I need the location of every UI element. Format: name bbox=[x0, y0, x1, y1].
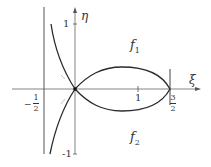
origin-point bbox=[73, 87, 77, 91]
diagram-svg bbox=[0, 0, 211, 167]
eta-tick-label-minus-1: -1 bbox=[62, 149, 72, 159]
tangent-hint-lower bbox=[61, 99, 65, 104]
xi-axis-label: ξ bbox=[189, 74, 196, 86]
eta-tick-label-1: 1 bbox=[63, 19, 69, 29]
xi-axis-arrow-icon bbox=[195, 87, 201, 91]
xi-neg-tick-label: 1 2 bbox=[33, 94, 39, 113]
upper-branch-curve bbox=[51, 24, 75, 89]
eta-axis-arrow-icon bbox=[73, 7, 77, 13]
region-label-f2: f2 bbox=[130, 130, 140, 147]
xi-tick-label-1: 1 bbox=[135, 93, 141, 103]
lower-branch-curve bbox=[50, 89, 75, 154]
eta-axis-label: η bbox=[81, 10, 88, 22]
xi-tick-label-3-2: 3 2 bbox=[170, 94, 176, 113]
tangent-hint-upper bbox=[61, 75, 65, 79]
xi-neg-tick-sign: − bbox=[24, 100, 32, 109]
diagram-canvas: ξ η 1 -1 1 3 2 − 1 2 f1 f2 bbox=[0, 0, 211, 167]
region-label-f1: f1 bbox=[130, 38, 140, 55]
